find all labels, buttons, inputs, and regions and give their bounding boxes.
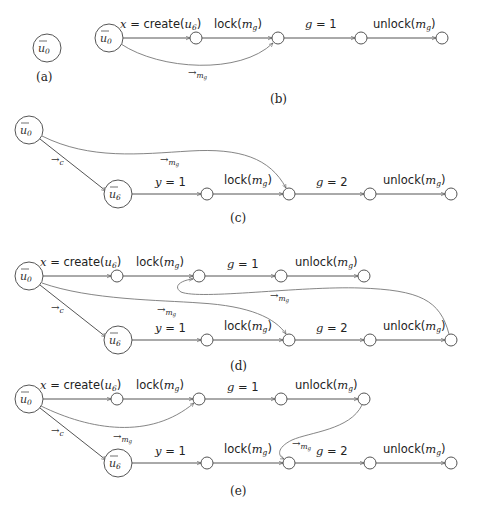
- sync-edge-mg: [121, 43, 273, 65]
- label-g1: g = 1: [227, 257, 259, 271]
- panel-c: u0 →c u6 →mg y = 1 lock(mg) g = 2 unlock…: [15, 116, 457, 225]
- label-unlock: unlock(mg): [373, 17, 436, 32]
- label-unlock: unlock(mg): [295, 255, 358, 270]
- label-lock: lock(mg): [136, 255, 184, 270]
- panel-a: u0 (a): [33, 34, 61, 84]
- label-sync-mg: →mg: [160, 154, 180, 168]
- sync-edge-mg: [41, 403, 194, 427]
- label-lock: lock(mg): [224, 319, 272, 334]
- label-sync-mg: →mg: [113, 431, 133, 445]
- state-node: [358, 270, 370, 282]
- label-y1: y = 1: [154, 175, 186, 189]
- label-lock: lock(mg): [224, 442, 272, 457]
- state-node: [193, 270, 205, 282]
- diagram-canvas: u0 (a) u0 x = create(u6) lock(mg) g = 1 …: [0, 0, 477, 515]
- caption-b: (b): [270, 92, 287, 106]
- label-unlock: unlock(mg): [383, 319, 446, 334]
- panel-e: u0 x = create(u6) lock(mg) g = 1 unlock(…: [15, 378, 457, 498]
- state-node: [436, 32, 448, 44]
- state-node: [283, 334, 295, 346]
- sync-edge-c: [40, 139, 106, 191]
- state-node: [111, 393, 123, 405]
- label-y1: y = 1: [154, 321, 186, 335]
- state-node: [364, 457, 376, 469]
- sync-edge-c: [40, 285, 106, 337]
- state-node: [111, 270, 123, 282]
- state-node: [193, 393, 205, 405]
- state-node: [364, 334, 376, 346]
- label-g2: g = 2: [316, 321, 348, 335]
- label-create: x = create(u6): [40, 255, 121, 270]
- label-create: x = create(u6): [120, 17, 201, 32]
- state-node: [358, 393, 370, 405]
- sync-edge-c: [40, 408, 106, 460]
- label-lock: lock(mg): [214, 17, 262, 32]
- label-sync-mg: →mg: [157, 304, 177, 318]
- panel-b: u0 x = create(u6) lock(mg) g = 1 unlock(…: [95, 17, 448, 106]
- label-y1: y = 1: [154, 444, 186, 458]
- state-node: [201, 334, 213, 346]
- label-g2: g = 2: [316, 175, 348, 189]
- state-node: [445, 334, 457, 346]
- state-node: [283, 457, 295, 469]
- state-node: [272, 32, 284, 44]
- state-node: [364, 188, 376, 200]
- label-g2: g = 2: [316, 444, 348, 458]
- state-node: [201, 457, 213, 469]
- state-node: [445, 457, 457, 469]
- panel-d: u0 x = create(u6) lock(mg) g = 1 unlock(…: [15, 255, 457, 373]
- label-sync-c: →c: [51, 302, 64, 315]
- label-create: x = create(u6): [40, 378, 121, 393]
- label-unlock: unlock(mg): [383, 442, 446, 457]
- caption-d: (d): [230, 359, 247, 373]
- label-unlock: unlock(mg): [295, 378, 358, 393]
- label-sync-c: →c: [51, 154, 64, 167]
- label-lock: lock(mg): [224, 173, 272, 188]
- state-node: [275, 393, 287, 405]
- state-node: [190, 32, 202, 44]
- caption-c: (c): [230, 211, 246, 225]
- state-node: [275, 270, 287, 282]
- state-node: [283, 188, 295, 200]
- label-sync-mg: →mg: [292, 438, 312, 452]
- label-g1: g = 1: [305, 17, 337, 31]
- label-sync-mg: →mg: [270, 290, 290, 304]
- label-lock: lock(mg): [136, 378, 184, 393]
- label-g1: g = 1: [227, 380, 259, 394]
- caption-e: (e): [230, 484, 246, 498]
- state-node: [201, 188, 213, 200]
- state-node: [445, 188, 457, 200]
- state-node: [355, 32, 367, 44]
- label-sync-mg: →mg: [188, 67, 208, 81]
- label-sync-c: →c: [51, 425, 64, 438]
- label-unlock: unlock(mg): [383, 173, 446, 188]
- caption-a: (a): [36, 70, 53, 84]
